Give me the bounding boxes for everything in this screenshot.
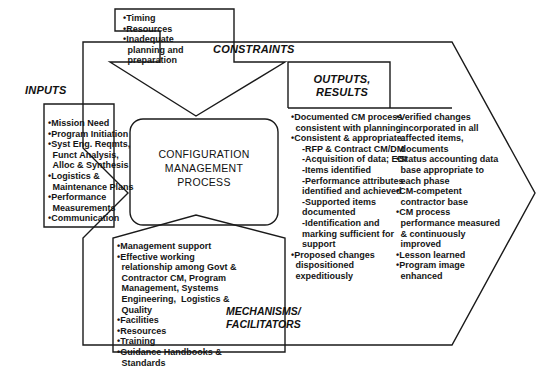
list-item: Standards (117, 358, 221, 369)
constraints-list: •Timing•Resources•Inadequateplanning and… (123, 13, 195, 66)
list-item: •Effective working (117, 252, 221, 263)
list-item: each phase (396, 176, 496, 187)
list-item: Engineering, Logistics & (117, 294, 221, 305)
list-item: •Consistent & appropriate: (291, 133, 395, 144)
constraints-label: CONSTRAINTS (213, 43, 295, 56)
list-item: •Communication (48, 213, 118, 224)
list-item: performance measured (396, 218, 496, 229)
list-item: •Verified changes (396, 112, 496, 123)
inputs-label: INPUTS (25, 84, 67, 97)
list-item: contractor base (396, 197, 496, 208)
list-item: identified and achieved (291, 186, 395, 197)
list-item: -Performance attributes (291, 176, 395, 187)
list-item: •Mission Need (48, 118, 118, 129)
list-item: relationship among Govt & (117, 262, 221, 273)
list-item: •Resources (117, 326, 221, 337)
list-item: Funct Analysis, (48, 150, 118, 161)
mechanisms-label: MECHANISMS/ FACILITATORS (226, 305, 301, 331)
list-item: -Acquisition of data; EDI (291, 154, 395, 165)
inputs-list: •Mission Need•Program Initiation•Syst En… (48, 118, 118, 224)
list-item: Measurements (48, 203, 118, 214)
mechanisms-list: •Management support•Effective workingrel… (117, 241, 221, 368)
list-item: •CM-competent (396, 186, 496, 197)
list-item: enhanced (396, 271, 496, 282)
list-item: •Documented CM process (291, 112, 395, 123)
list-item: consistent with planning (291, 123, 395, 134)
list-item: Quality (117, 305, 221, 316)
list-item: improved (396, 239, 496, 250)
list-item: •Proposed changes (291, 250, 395, 261)
list-item: dispositioned (291, 260, 395, 271)
outputs-column-two: •Verified changesincorporated in allaffe… (396, 112, 496, 282)
list-item: planning and (123, 45, 195, 56)
list-item: •Performance (48, 192, 118, 203)
outputs-label: OUTPUTS, RESULTS (307, 73, 377, 99)
list-item: •Resources (123, 24, 195, 35)
list-item: preparation (123, 55, 195, 66)
list-item: Maintenance Plans (48, 182, 118, 193)
list-item: expeditiously (291, 271, 395, 282)
list-item: •Program image (396, 260, 496, 271)
list-item: •Management support (117, 241, 221, 252)
outputs-column-one: •Documented CM processconsistent with pl… (291, 112, 395, 282)
list-item: •CM process (396, 207, 496, 218)
list-item: documents (396, 144, 496, 155)
process-title: CONFIGURATION MANAGEMENT PROCESS (130, 147, 278, 189)
list-item: documented (291, 207, 395, 218)
list-item: -Identification and (291, 218, 395, 229)
list-item: -Items identified (291, 165, 395, 176)
list-item: -RFP & Contract CM/DM (291, 144, 395, 155)
list-item: •Lesson learned (396, 250, 496, 261)
list-item: Management, Systems (117, 283, 221, 294)
list-item: •Status accounting data (396, 154, 496, 165)
list-item: incorporated in all (396, 123, 496, 134)
list-item: marking sufficient for (291, 229, 395, 240)
list-item: •Syst Eng. Reqmts, (48, 139, 118, 150)
list-item: •Timing (123, 13, 195, 24)
list-item: •Program Initiation (48, 129, 118, 140)
diagram-canvas: CONSTRAINTS •Timing•Resources•Inadequate… (0, 0, 556, 391)
list-item: base appropriate to (396, 165, 496, 176)
list-item: •Facilities (117, 315, 221, 326)
list-item: •Inadequate (123, 34, 195, 45)
list-item: Alloc & Synthesis (48, 160, 118, 171)
list-item: affected items, (396, 133, 496, 144)
list-item: -Supported items (291, 197, 395, 208)
list-item: Contractor CM, Program (117, 273, 221, 284)
list-item: & continuously (396, 229, 496, 240)
list-item: •Guidance Handbooks & (117, 347, 221, 358)
list-item: support (291, 239, 395, 250)
list-item: •Training (117, 336, 221, 347)
list-item: •Logistics & (48, 171, 118, 182)
